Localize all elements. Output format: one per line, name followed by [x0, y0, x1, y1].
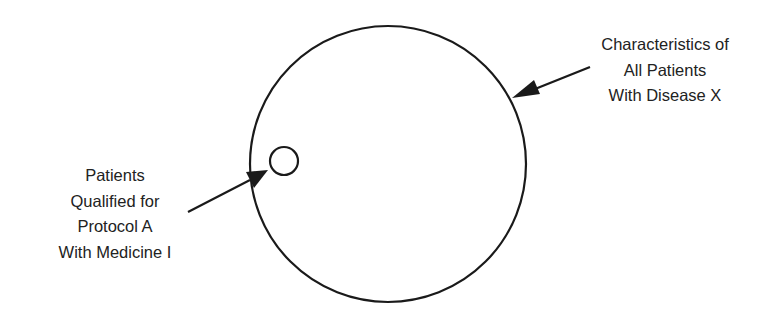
qualified-patients-circle [270, 147, 298, 175]
qualified-patients-label: Patients Qualified for Protocol A With M… [25, 163, 205, 265]
all-patients-label-line: Characteristics of [575, 32, 755, 58]
qualified-patients-label-line: Qualified for [25, 189, 205, 215]
all-patients-label: Characteristics of All Patients With Dis… [575, 32, 755, 109]
qualified-patients-label-line: Patients [25, 163, 205, 189]
all-patients-label-line: All Patients [575, 58, 755, 84]
all-patients-circle [250, 26, 526, 302]
all-patients-label-line: With Disease X [575, 83, 755, 109]
qualified-patients-label-line: With Medicine I [25, 240, 205, 266]
qualified-patients-label-line: Protocol A [25, 214, 205, 240]
